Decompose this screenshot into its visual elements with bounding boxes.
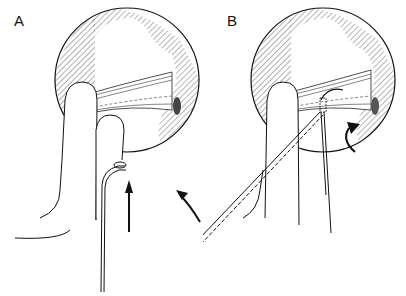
panel-a: A <box>0 0 203 296</box>
hand <box>243 82 299 225</box>
panel-b-illustration <box>203 0 406 296</box>
panel-b: B <box>203 0 406 296</box>
panel-a-illustration <box>0 0 203 296</box>
curved-arrow <box>176 190 200 222</box>
up-arrow <box>125 180 133 232</box>
